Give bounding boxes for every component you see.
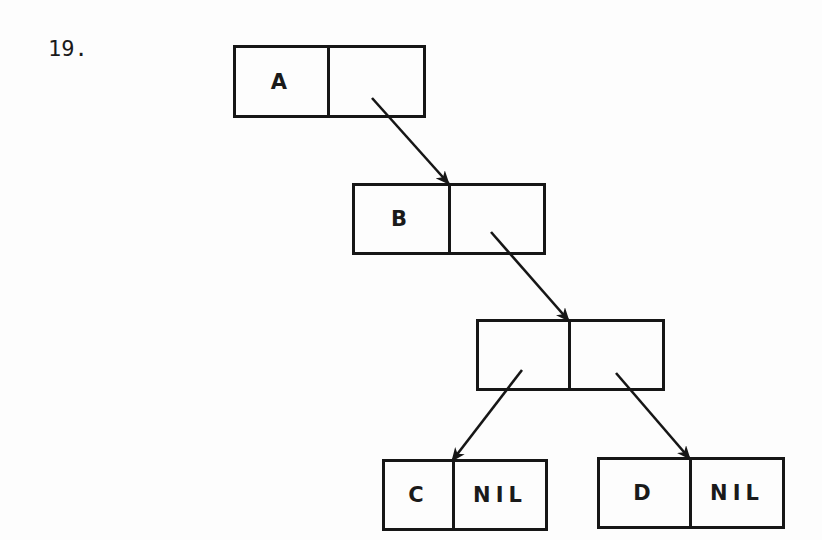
pointer-arrow	[491, 232, 569, 321]
pointer-arrows	[0, 0, 822, 540]
pointer-arrow	[452, 370, 522, 461]
pointer-arrow	[616, 373, 690, 459]
pointer-arrow	[372, 98, 449, 184]
